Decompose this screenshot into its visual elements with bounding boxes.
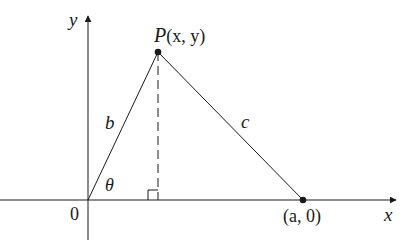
side-c	[158, 52, 303, 200]
side-b	[88, 52, 158, 200]
side-c-label: c	[241, 111, 250, 132]
side-b-label: b	[105, 112, 115, 133]
point-p-coords: (x, y)	[166, 26, 205, 47]
right-angle-marker	[148, 190, 158, 200]
x-axis-label: x	[383, 204, 393, 225]
angle-theta-label: θ	[105, 175, 114, 195]
y-axis-label: y	[67, 9, 78, 30]
triangle-diagram: y x 0 P(x, y) (a, 0) b c θ	[0, 0, 420, 247]
origin-label: 0	[70, 204, 79, 224]
point-a-label: (a, 0)	[283, 206, 321, 227]
point-p-name: P	[153, 24, 166, 46]
point-p	[155, 49, 162, 56]
point-a	[300, 197, 307, 204]
point-p-label: P(x, y)	[153, 24, 205, 47]
